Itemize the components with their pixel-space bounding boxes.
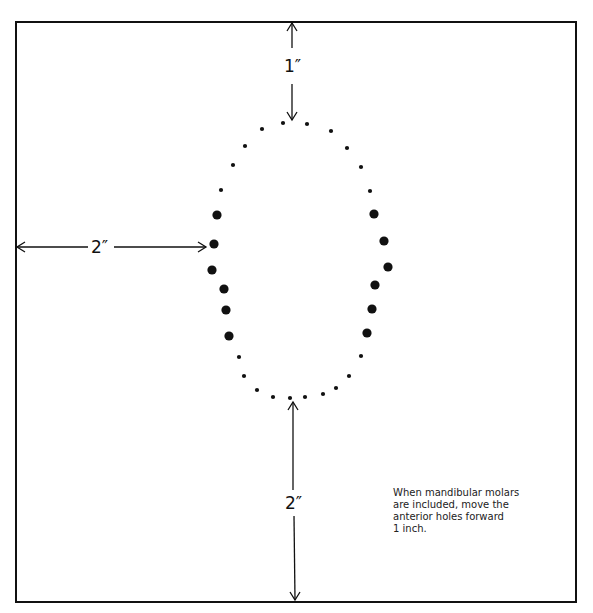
small-hole: [321, 392, 325, 396]
hole-pattern: [207, 121, 392, 400]
large-hole: [367, 304, 376, 313]
small-hole: [231, 163, 235, 167]
small-hole: [219, 188, 223, 192]
bottom-dimension-label: 2″: [283, 493, 304, 513]
large-hole: [369, 209, 378, 218]
small-hole: [260, 127, 264, 131]
note-line: When mandibular molars: [393, 487, 543, 499]
note-line: 1 inch.: [393, 523, 543, 535]
small-hole: [359, 354, 363, 358]
note-line: anterior holes forward: [393, 511, 543, 523]
small-hole: [237, 355, 241, 359]
large-hole: [362, 328, 371, 337]
large-hole: [379, 236, 388, 245]
top-dimension-label: 1″: [282, 56, 303, 76]
left-dimension-arrow: [17, 242, 206, 252]
large-hole: [212, 210, 221, 219]
small-hole: [242, 374, 246, 378]
small-hole: [329, 129, 333, 133]
large-hole: [207, 265, 216, 274]
large-hole: [221, 305, 230, 314]
large-hole: [219, 284, 228, 293]
left-dimension-label: 2″: [89, 237, 110, 257]
large-hole: [383, 262, 392, 271]
instruction-note: When mandibular molars are included, mov…: [393, 487, 543, 535]
small-hole: [368, 189, 372, 193]
small-hole: [305, 122, 309, 126]
small-hole: [303, 395, 307, 399]
small-hole: [359, 165, 363, 169]
small-hole: [255, 388, 259, 392]
small-hole: [271, 395, 275, 399]
large-hole: [209, 239, 218, 248]
small-hole: [347, 374, 351, 378]
small-hole: [334, 386, 338, 390]
large-hole: [224, 331, 233, 340]
note-line: are included, move the: [393, 499, 543, 511]
small-hole: [345, 146, 349, 150]
small-hole: [288, 396, 292, 400]
small-hole: [243, 144, 247, 148]
large-hole: [370, 280, 379, 289]
small-hole: [281, 121, 285, 125]
